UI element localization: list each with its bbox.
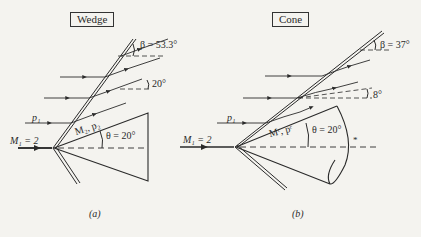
cone-conical-shock — [235, 31, 384, 190]
cone-p1-label: p₁ — [226, 112, 235, 123]
cone-body — [236, 106, 349, 184]
wedge-downstream-label: M₂, p₂ — [73, 118, 101, 136]
caption-b: (b) — [292, 208, 304, 219]
cone-mach1-label: M₁ = 2 — [182, 134, 212, 145]
wedge-panel — [18, 39, 168, 184]
wedge-mach1-label: M₁ = 2 — [9, 135, 39, 146]
cone-half-angle: θ = 20° — [312, 124, 341, 135]
cone-downstream-label: Mᶜ, pᶜ — [268, 122, 294, 139]
cone-deflection-angle: 8° — [373, 89, 382, 100]
shock-diagram: β = 53.3° 20° p₁ M₁ = 2 M₂, p₂ θ = 20° — [0, 0, 421, 237]
wedge-half-angle: θ = 20° — [106, 130, 135, 141]
cone-shock-angle: β = 37° — [380, 39, 410, 50]
cone-panel — [180, 31, 392, 190]
caption-a: (a) — [89, 208, 101, 219]
wedge-deflection-angle: 20° — [152, 78, 166, 89]
wedge-p1-label: p₁ — [31, 112, 40, 123]
cone-marker: * — [353, 135, 358, 145]
wedge-shock-angle: β = 53.3° — [140, 39, 177, 50]
